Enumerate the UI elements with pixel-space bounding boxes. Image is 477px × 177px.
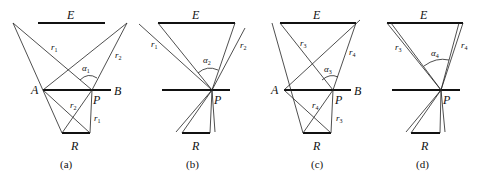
label-r-lower-vert: r3 [336,113,343,124]
label-r-upper-right: r2 [115,50,122,61]
ray-lower-left [182,90,212,133]
caption-b: (b) [186,158,199,171]
label-alpha: α4 [431,48,439,59]
panel-a: E r1 r2 α1 A B P r2 r1 R (a) [13,8,127,171]
label-R: R [312,139,321,153]
label-E: E [312,8,321,22]
ray-r2-upper [212,28,245,90]
ray-lower-right [210,90,212,133]
ray-r1-upper [139,24,212,90]
ray-lower-left-outer [406,90,441,132]
label-A: A [30,83,39,97]
ray-r1-lower [90,90,92,133]
panel-d: E r3 r4 α4 P R (d) [387,8,468,171]
ray-left-edge [272,23,303,133]
label-r-upper-left: r3 [395,42,402,53]
label-R: R [420,139,429,153]
label-r-upper-left: r1 [51,42,58,53]
angle-arc [424,59,449,66]
panel-c: E r3 r4 α3 A B P r4 r3 R (c) [270,8,362,171]
caption-d: (d) [416,158,429,171]
label-R: R [191,139,200,153]
ray-r4-upper-b [441,23,459,90]
label-r-upper-left: r1 [151,39,158,50]
label-alpha: α2 [203,55,211,66]
angle-arc [80,75,97,80]
ray-E-right [212,23,235,90]
label-alpha: α1 [82,63,90,74]
label-E: E [191,8,200,22]
label-B: B [114,84,122,98]
caption-a: (a) [60,158,73,171]
label-alpha: α3 [324,64,332,75]
angle-arc [198,68,218,73]
label-r-upper-right: r4 [461,40,468,51]
label-E: E [66,8,75,22]
label-r-lower-diag: r2 [70,100,77,111]
label-r-upper-right: r4 [349,47,356,58]
label-E: E [419,8,428,22]
label-r-lower-diag: r4 [312,100,319,111]
ray-right-edge [92,23,127,90]
label-P: P [213,93,222,107]
label-r-upper-left: r3 [300,38,307,49]
label-B: B [354,84,362,98]
label-A: A [270,83,279,97]
label-r-lower-vert: r1 [94,113,101,124]
ray-lower-left [411,90,441,133]
label-P: P [92,93,101,107]
figure: E r1 r2 α1 A B P r2 r1 R (a) E r1 r2 α2 … [0,0,477,177]
label-P: P [442,93,451,107]
label-P: P [334,93,343,107]
ray-lower-left-outer [176,90,212,132]
ray-r3-lower [331,90,333,133]
label-r-upper-right: r2 [240,40,247,51]
ray-left-edge [13,23,62,133]
label-R: R [70,139,79,153]
caption-c: (c) [311,158,324,171]
ray-r4-upper-a [441,23,463,90]
ray-lower-right [440,90,441,133]
panel-b: E r1 r2 α2 P R (b) [139,8,247,171]
